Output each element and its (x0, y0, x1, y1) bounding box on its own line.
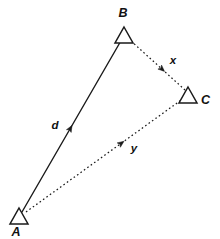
arrowhead-d (66, 124, 74, 132)
vertex-marker-B (115, 27, 133, 43)
diagram-canvas: dxy ABC (0, 0, 220, 239)
vertex-marker-A (10, 208, 28, 224)
vertex-labels-group: ABC (10, 6, 211, 239)
vector-triangle-diagram: dxy ABC (0, 0, 220, 239)
vertex-label-C: C (201, 93, 211, 107)
vertex-marker-C (179, 87, 197, 103)
vertex-label-A: A (10, 225, 20, 239)
vector-label-y: y (130, 142, 138, 154)
vector-line-y (26, 98, 184, 212)
vertex-label-B: B (118, 6, 127, 20)
vector-label-d: d (51, 119, 59, 131)
vector-label-x: x (169, 54, 177, 66)
vector-lines-group (22, 39, 185, 212)
vector-line-x (131, 41, 185, 90)
